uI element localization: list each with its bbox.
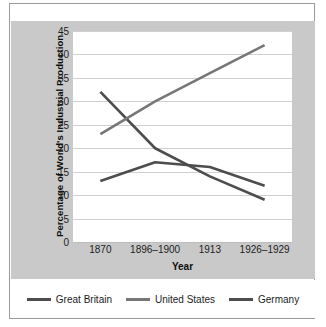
- y-axis-tick-label: 40: [43, 49, 69, 60]
- x-axis-tick-label: 1896–1900: [130, 244, 180, 255]
- y-axis-tick-label: 30: [43, 96, 69, 107]
- series-line-united-states: [100, 45, 264, 134]
- x-axis-tick-label: 1926–1929: [240, 244, 290, 255]
- legend-label: Germany: [258, 294, 299, 305]
- x-axis-tick-label: 1870: [89, 244, 111, 255]
- legend-entry-great-britain[interactable]: Great Britain: [27, 294, 112, 305]
- y-axis-tick-label: 35: [43, 72, 69, 83]
- y-axis-tick-label: 10: [43, 190, 69, 201]
- y-axis-tick-label: 0: [43, 237, 69, 248]
- legend-entry-united-states[interactable]: United States: [126, 294, 215, 305]
- series-line-great-britain: [100, 92, 264, 200]
- chart-figure: Percentage of World's Industrial Product…: [9, 3, 315, 319]
- chart-panel: Percentage of World's Industrial Product…: [11, 21, 315, 279]
- y-axis-tick-label: 15: [43, 166, 69, 177]
- legend-swatch-icon: [126, 298, 150, 301]
- y-axis-ticks: 051015202530354045: [37, 31, 69, 242]
- legend-label: Great Britain: [56, 294, 112, 305]
- chart-legend: Great BritainUnited StatesGermany: [11, 280, 315, 318]
- legend-entry-germany[interactable]: Germany: [229, 294, 299, 305]
- legend-swatch-icon: [27, 298, 51, 301]
- series-lines: [73, 31, 292, 242]
- y-axis-tick-label: 25: [43, 119, 69, 130]
- x-axis-tick-label: 1913: [199, 244, 221, 255]
- y-axis-tick-label: 45: [43, 26, 69, 37]
- y-axis-tick-label: 5: [43, 213, 69, 224]
- y-axis-tick-label: 20: [43, 143, 69, 154]
- x-axis-title: Year: [73, 261, 292, 272]
- gridline: [73, 242, 292, 243]
- legend-label: United States: [155, 294, 215, 305]
- series-line-germany: [100, 162, 264, 185]
- plot-area: [73, 31, 292, 242]
- legend-swatch-icon: [229, 298, 253, 301]
- x-axis-ticks: 18701896–190019131926–1929: [73, 244, 292, 260]
